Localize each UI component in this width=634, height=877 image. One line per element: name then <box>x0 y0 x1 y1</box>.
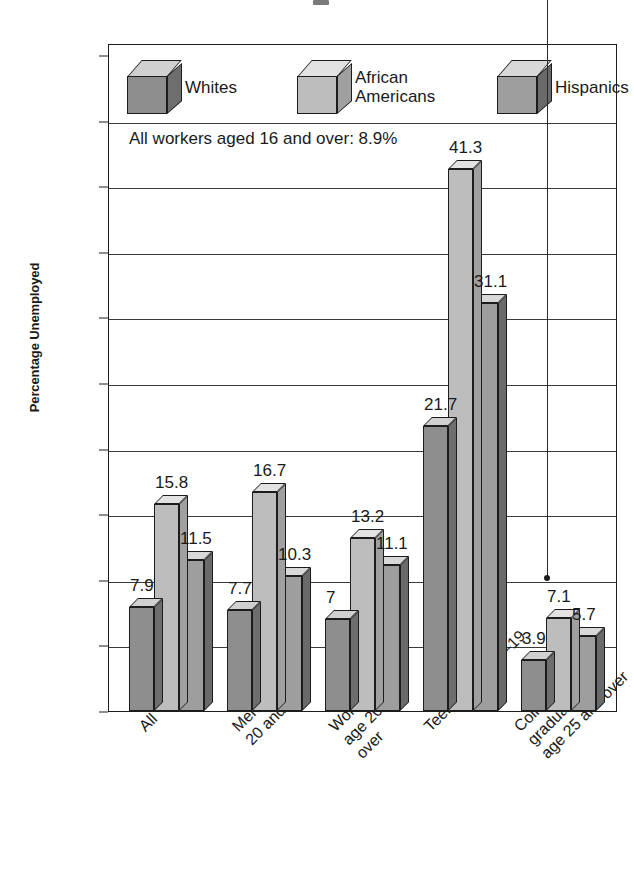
legend-item-label: Hispanics <box>555 78 629 97</box>
chart-figure: Percentage Unemployed 7.915.811.57.716.7… <box>0 0 634 877</box>
y-axis-title: Percentage Unemployed <box>27 218 42 458</box>
legend-item-label: Whites <box>185 78 237 97</box>
cube-icon <box>127 60 183 114</box>
cube-icon <box>297 60 353 114</box>
bar-value-label: 3.9 <box>522 630 546 647</box>
cube-icon <box>497 60 553 114</box>
scan-artifact <box>313 0 329 5</box>
bar-value-label: 11.5 <box>180 530 212 547</box>
bar-value-label: 7.9 <box>130 577 154 594</box>
legend-item-1[interactable]: Whites <box>127 59 237 115</box>
bar-value-label: 7.1 <box>547 588 571 605</box>
y-tick-mark <box>99 252 108 253</box>
bar <box>227 610 252 711</box>
y-tick-mark <box>99 646 108 647</box>
y-tick-mark <box>99 515 108 516</box>
x-category-label: All <box>135 709 161 735</box>
y-tick-mark <box>99 449 108 450</box>
bar-value-label: 16.7 <box>253 462 286 479</box>
plot-area: 7.915.811.57.716.710.3713.211.121.741.33… <box>108 44 617 712</box>
y-tick-mark <box>99 712 108 713</box>
bar <box>129 607 154 711</box>
y-tick-mark <box>99 580 108 581</box>
y-tick-mark <box>99 56 108 57</box>
y-tick-mark <box>99 318 108 319</box>
bar-value-label: 10.3 <box>278 546 311 563</box>
y-tick-mark <box>99 187 108 188</box>
legend-item-label: African Americans <box>355 68 435 106</box>
legend-item-3[interactable]: Hispanics <box>497 59 629 115</box>
bar-value-label: 7.7 <box>228 580 252 597</box>
bar <box>423 426 448 711</box>
bar-value-label: 7 <box>326 589 335 606</box>
bar-value-label: 13.2 <box>351 508 384 525</box>
bar-value-label: 11.1 <box>376 535 408 552</box>
bar-value-label: 31.1 <box>474 273 507 290</box>
legend-item-2[interactable]: African Americans <box>297 59 435 115</box>
annotation-all-workers: All workers aged 16 and over: 8.9% <box>129 129 397 149</box>
bar-value-label: 15.8 <box>155 474 188 491</box>
bar-value-label: 5.7 <box>572 606 596 623</box>
bar-value-label: 21.7 <box>424 396 457 413</box>
bar <box>325 619 350 711</box>
annotation-leader-line <box>547 0 548 578</box>
bar-value-label: 41.3 <box>449 139 482 156</box>
y-tick-mark <box>99 384 108 385</box>
bar <box>521 660 546 711</box>
y-tick-mark <box>99 121 108 122</box>
annotation-leader-dot <box>544 575 550 581</box>
